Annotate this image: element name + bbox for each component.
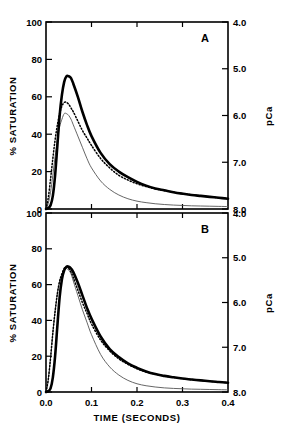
panel-a-pca-tick-4: 4.0 — [233, 17, 246, 28]
panel-b-frame — [46, 213, 228, 392]
panel-b-pca-axis-title: pCa — [263, 293, 274, 313]
panel-a-curves — [46, 76, 228, 209]
panel-b-letter: B — [201, 223, 209, 235]
panel-a-left-ticks — [46, 22, 52, 209]
panel-a-ytick-100: 100 — [26, 17, 42, 28]
panel-a-pca-tick-6: 6.0 — [233, 110, 246, 121]
panel-b-y-axis-title: % SATURATION — [7, 263, 18, 342]
panel-b-ytick-100: 100 — [26, 208, 42, 219]
panel-b-right-ticks — [222, 213, 228, 392]
panel-b-ytick-80: 80 — [31, 243, 42, 254]
panel-b-ytick-40: 40 — [31, 315, 42, 326]
panel-a-y-axis-title: % SATURATION — [7, 76, 18, 155]
panel-b-left-ticks — [46, 213, 52, 392]
panel-b-ytick-60: 60 — [31, 279, 42, 290]
panel-b-curves — [46, 266, 228, 392]
panel-b-pca-tick-4: 4.0 — [233, 208, 246, 219]
panel-b-curve-dotted — [46, 267, 228, 392]
panel-b-pca-tick-6: 6.0 — [233, 297, 246, 308]
panel-a-pca-tick-5: 5.0 — [233, 63, 246, 74]
panel-a-ytick-20: 20 — [31, 166, 42, 177]
xtick-0p1: 0.1 — [85, 397, 99, 408]
panel-a-ytick-60: 60 — [31, 91, 42, 102]
panel-b-x-ticks — [92, 213, 183, 392]
panel-a-curve-dotted — [46, 102, 228, 209]
panel-b-pca-tick-8: 8.0 — [233, 387, 246, 398]
panel-a-letter: A — [201, 32, 209, 44]
panel-b-curve-thin-solid — [46, 268, 228, 392]
panel-b-ytick-20: 20 — [31, 351, 42, 362]
panel-a: 100 80 60 40 20 0 % SATURATION 4.0 5.0 6… — [7, 17, 274, 215]
xtick-0p2: 0.2 — [130, 397, 143, 408]
panel-a-ytick-80: 80 — [31, 54, 42, 65]
x-axis-label: TIME (SECONDS) — [93, 412, 180, 423]
two-panel-figure: 100 80 60 40 20 0 % SATURATION 4.0 5.0 6… — [0, 0, 285, 446]
panel-a-ytick-40: 40 — [31, 129, 42, 140]
panel-b-pca-tick-7: 7.0 — [233, 342, 246, 353]
shared-x-axis: 0.0 0.1 0.2 0.3 0.4 TIME (SECONDS) — [39, 397, 235, 423]
panel-b-ytick-0: 0 — [37, 387, 42, 398]
panel-b-pca-tick-5: 5.0 — [233, 252, 246, 263]
panel-a-curve-thick-solid — [46, 76, 228, 209]
panel-b: 100 80 60 40 20 0 % SATURATION 4.0 5.0 6… — [7, 208, 274, 398]
xtick-0p4: 0.4 — [221, 397, 235, 408]
xtick-0p3: 0.3 — [176, 397, 189, 408]
panel-a-pca-tick-7: 7.0 — [233, 157, 246, 168]
panel-b-curve-thick-solid — [46, 266, 228, 392]
panel-a-pca-axis-title: pCa — [263, 106, 274, 126]
xtick-0p0: 0.0 — [39, 397, 52, 408]
panel-a-right-ticks — [222, 22, 228, 209]
